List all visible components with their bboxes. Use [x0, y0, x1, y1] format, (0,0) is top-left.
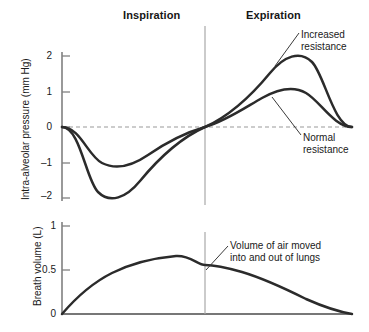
curve-normal-resistance [62, 89, 352, 166]
leader-line-normal-resistance [272, 97, 301, 135]
curve-breath-volume [62, 256, 352, 314]
leader-line-increased-resistance [275, 33, 299, 66]
respiratory-pressure-volume-figure: Inspiration Expiration Intra-alveolar pr… [0, 0, 369, 332]
plot-canvas [0, 0, 369, 332]
